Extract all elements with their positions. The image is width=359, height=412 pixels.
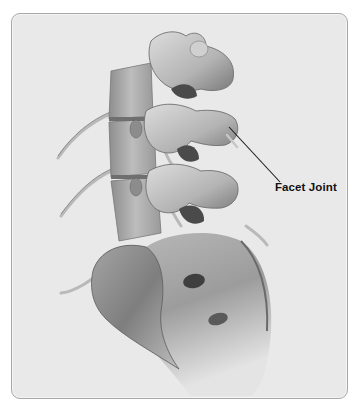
vertebra-upper: [149, 32, 233, 99]
facet-joint-pointer: [229, 127, 280, 182]
sacrum: [92, 233, 272, 396]
spine-illustration: [11, 13, 348, 399]
vertebral-bodies: [109, 63, 161, 241]
facet-joint-label: Facet Joint: [275, 181, 337, 193]
illustration-frame: Facet Joint: [11, 13, 348, 399]
